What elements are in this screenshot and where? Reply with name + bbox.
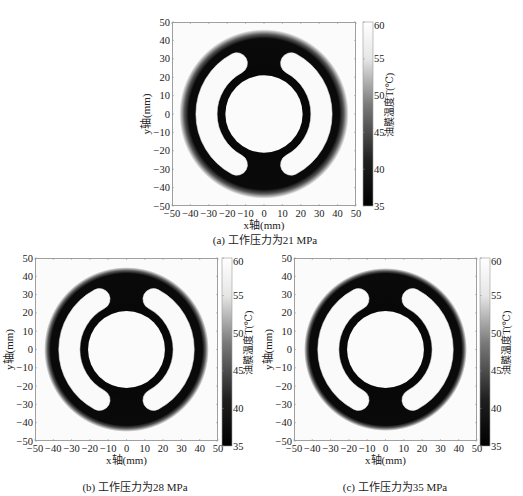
y-tick-label: −20 — [276, 381, 292, 392]
x-tick-label: −10 — [359, 443, 375, 454]
colorbar-tick-label: 60 — [491, 256, 502, 267]
colorbar — [480, 258, 490, 446]
colorbar-tick-label: 55 — [491, 290, 502, 301]
x-tick-label: 40 — [453, 443, 464, 454]
x-tick-label: −20 — [341, 443, 357, 454]
y-tick-label: 20 — [282, 307, 293, 318]
x-tick-label: 0 — [383, 443, 388, 454]
caption-c: (c) 工作压力为35 MPa — [310, 478, 480, 494]
inner-disk — [347, 311, 424, 388]
x-tick-label: −40 — [304, 443, 320, 454]
x-tick-label: −30 — [322, 443, 338, 454]
x-axis-label: x轴(mm) — [365, 453, 406, 467]
colorbar-tick-label: 35 — [491, 441, 502, 452]
x-tick-label: 30 — [435, 443, 446, 454]
colorbar-tick-label: 45 — [491, 365, 502, 376]
y-tick-label: 50 — [282, 253, 293, 264]
y-tick-label: −40 — [276, 417, 292, 428]
y-tick-label: 10 — [282, 326, 293, 337]
caption-b: (b) 工作压力为28 MPa — [50, 478, 220, 494]
y-axis-label: y轴(mm) — [261, 329, 275, 370]
colorbar-tick-label: 50 — [491, 328, 502, 339]
x-tick-label: 10 — [399, 443, 410, 454]
y-tick-label: 30 — [282, 289, 293, 300]
y-tick-label: 40 — [282, 271, 293, 282]
caption-a: (a) 工作压力为21 MPa — [180, 231, 350, 247]
colorbar-tick-label: 40 — [491, 403, 502, 414]
x-tick-label: 20 — [417, 443, 428, 454]
y-tick-label: −50 — [276, 436, 292, 447]
y-tick-label: −10 — [276, 362, 292, 373]
heatmap-c — [294, 258, 477, 441]
y-tick-label: 0 — [287, 344, 292, 355]
y-tick-label: −30 — [276, 399, 292, 410]
colorbar-label: 油膜温度T(℃) — [500, 311, 513, 375]
